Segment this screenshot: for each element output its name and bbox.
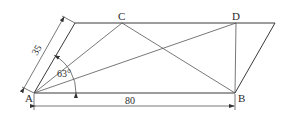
- segment-AD: [34, 23, 236, 93]
- dimension-base: 80: [34, 94, 235, 110]
- angle-annotation: 63°: [55, 56, 76, 93]
- dimension-label-35: 35: [29, 43, 44, 57]
- segment-DB: [235, 23, 236, 93]
- angle-label: 63°: [57, 68, 71, 79]
- segment-CB: [122, 23, 235, 93]
- point-labels: A B C D: [25, 10, 245, 104]
- dimension-label-80: 80: [125, 95, 135, 106]
- point-label-B: B: [238, 92, 245, 104]
- point-label-D: D: [232, 10, 240, 22]
- side-right: [235, 23, 275, 93]
- point-label-C: C: [118, 10, 125, 22]
- point-label-A: A: [25, 92, 33, 104]
- internal-segments: [34, 23, 236, 93]
- parallelogram-diagram: 35 63° 80 A B C D: [0, 0, 291, 123]
- segment-AC: [34, 23, 122, 93]
- parallelogram-outline: [34, 23, 275, 93]
